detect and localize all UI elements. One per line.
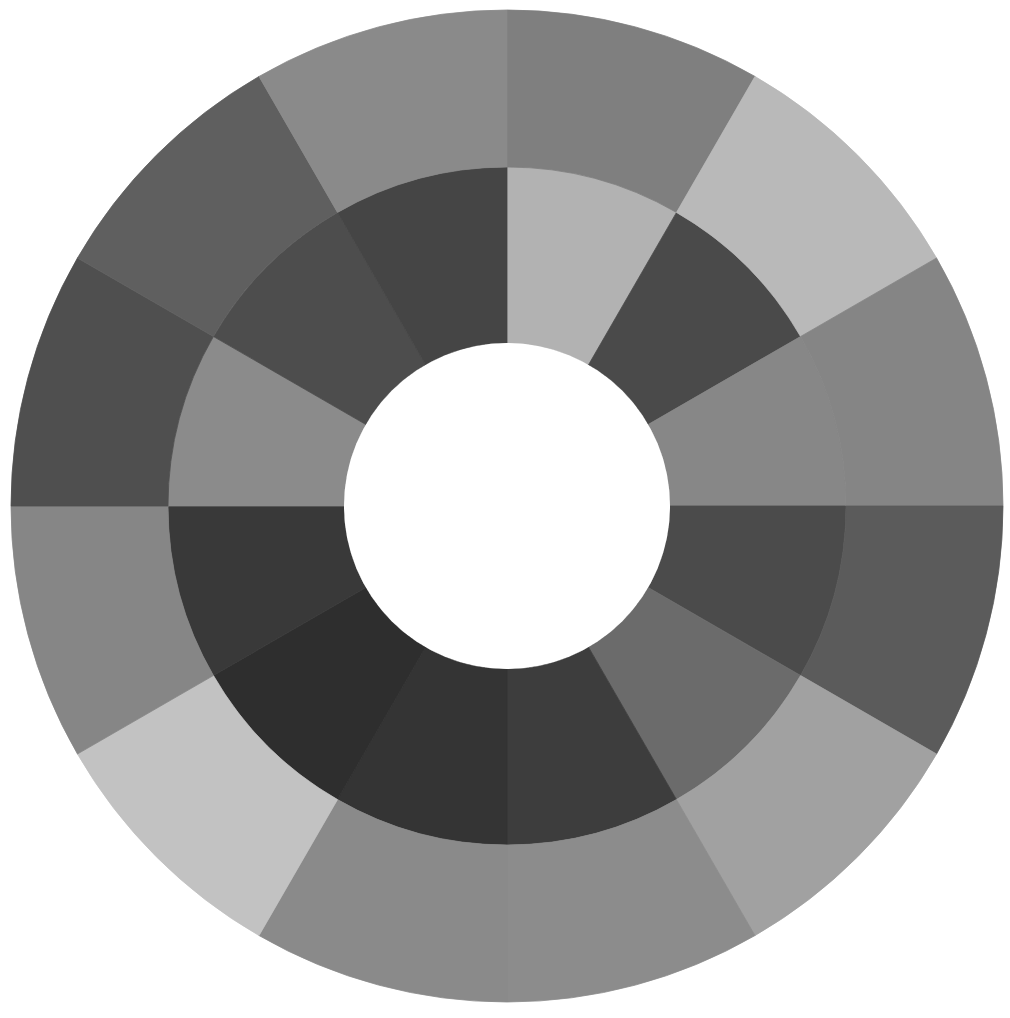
center-hole xyxy=(344,343,670,669)
color-wheel-canvas xyxy=(0,0,1010,1018)
color-wheel xyxy=(0,0,1010,1018)
